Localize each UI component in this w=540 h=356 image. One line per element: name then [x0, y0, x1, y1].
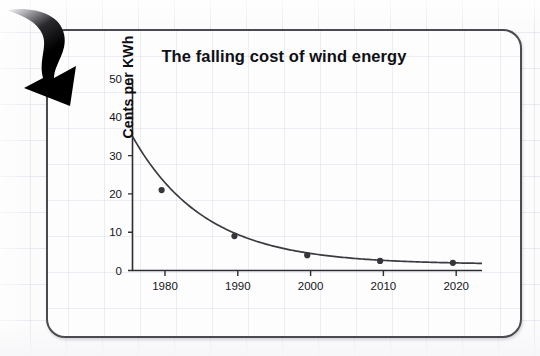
y-tick-label: 20: [109, 188, 122, 200]
data-curve: [133, 136, 483, 263]
y-tick-label: 0: [116, 265, 122, 277]
chart-plot: 0 10 20 30 40 50 1980 1990 2000 2010 202…: [48, 31, 520, 336]
y-tick-label: 10: [109, 226, 122, 238]
y-axis-title: Cents per KWh: [120, 29, 136, 167]
x-axis-tick-labels: 1980 1990 2000 2010 2020: [152, 280, 469, 292]
top-clipped-text: [14, 0, 530, 5]
data-point: [231, 233, 237, 239]
data-point: [304, 252, 310, 258]
chart-card: The falling cost of wind energy 0 10 20 …: [46, 29, 522, 338]
x-tick-label: 2010: [371, 280, 397, 292]
x-axis-ticks: [165, 271, 456, 277]
x-tick-label: 1980: [152, 280, 178, 292]
data-point: [159, 187, 165, 193]
data-point: [450, 260, 456, 266]
data-markers: [159, 187, 456, 266]
x-tick-label: 2020: [443, 280, 469, 292]
data-point: [377, 258, 383, 264]
x-tick-label: 2000: [298, 280, 324, 292]
x-tick-label: 1990: [225, 280, 251, 292]
